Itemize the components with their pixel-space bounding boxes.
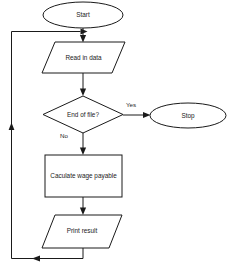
calculate-label: Caculate wage payable <box>50 172 117 180</box>
node-stop[interactable]: Stop <box>150 103 226 128</box>
arrowhead-down <box>80 208 86 216</box>
node-decision[interactable]: End of file? <box>43 96 123 133</box>
node-print-result[interactable]: Print result <box>42 215 122 248</box>
arrowhead-right <box>143 112 151 118</box>
arrowhead-down <box>80 148 86 156</box>
node-calculate[interactable]: Caculate wage payable <box>45 155 122 197</box>
arrowhead-right <box>81 29 88 35</box>
edge-decision-to-stop <box>123 112 151 118</box>
arrowhead-down <box>80 89 86 97</box>
node-read-in-data[interactable]: Read in data <box>42 42 125 73</box>
start-label: Start <box>76 11 90 18</box>
edge-decision-to-calculate <box>80 133 86 155</box>
node-start[interactable]: Start <box>43 2 123 28</box>
flowchart-canvas: Start Read in data End of file? Stop Cac… <box>0 0 229 274</box>
arrowhead-up <box>9 123 15 131</box>
arrowhead-left <box>32 255 40 261</box>
edge-read-to-decision <box>80 73 86 96</box>
read-label: Read in data <box>65 54 102 61</box>
print-label: Print result <box>67 227 98 234</box>
edge-calculate-to-print <box>80 197 86 215</box>
stop-label: Stop <box>181 112 195 120</box>
arrowhead-down <box>80 35 86 43</box>
edge-label-yes: Yes <box>126 101 136 108</box>
decision-label: End of file? <box>67 111 99 118</box>
edge-label-no: No <box>60 132 68 139</box>
